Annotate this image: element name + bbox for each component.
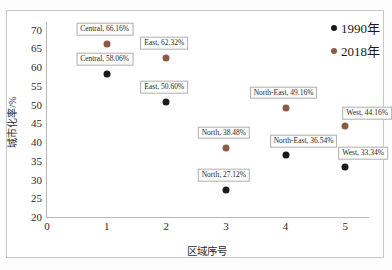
data-point-label: West, 44.16% bbox=[342, 107, 392, 120]
chart-legend: 1990年 2018年 bbox=[331, 18, 380, 64]
data-point-label: East, 50.60% bbox=[140, 81, 188, 94]
data-point-label: North-East, 36.54% bbox=[270, 135, 338, 148]
y-axis-tick: 35 bbox=[31, 155, 42, 166]
legend-marker-icon bbox=[331, 25, 337, 31]
x-axis-tick: 0 bbox=[44, 221, 50, 232]
data-point-label: North, 38.48% bbox=[198, 126, 250, 139]
y-axis-tick: 30 bbox=[31, 174, 42, 185]
legend-item-2018: 2018年 bbox=[331, 41, 380, 60]
data-point bbox=[163, 55, 170, 62]
legend-label: 2018年 bbox=[341, 41, 380, 60]
plot-area: 2025303540455055606570012345Central, 58.… bbox=[46, 22, 369, 218]
data-point bbox=[342, 123, 349, 130]
x-axis-tick: 3 bbox=[223, 221, 229, 232]
data-point-label: East, 62.32% bbox=[140, 37, 188, 50]
data-point bbox=[342, 163, 349, 170]
x-axis-tick: 1 bbox=[104, 221, 110, 232]
data-point-label: Central, 66.16% bbox=[76, 23, 133, 36]
y-axis-tick: 25 bbox=[31, 193, 42, 204]
data-point bbox=[103, 71, 110, 78]
x-axis-tick: 2 bbox=[164, 221, 170, 232]
data-point bbox=[222, 144, 229, 151]
data-point-label: Central, 58.06% bbox=[76, 53, 133, 66]
y-axis-tick: 50 bbox=[31, 99, 42, 110]
y-axis-tick: 20 bbox=[31, 212, 42, 223]
data-point bbox=[282, 151, 289, 158]
legend-label: 1990年 bbox=[341, 18, 380, 37]
data-point-label: North, 27.12% bbox=[198, 169, 250, 182]
data-point-label: North-East, 49.16% bbox=[250, 86, 318, 99]
y-axis-tick: 45 bbox=[31, 118, 42, 129]
data-point bbox=[103, 40, 110, 47]
y-axis-tick: 60 bbox=[31, 62, 42, 73]
data-point bbox=[163, 99, 170, 106]
data-point-label: West, 33.34% bbox=[338, 147, 388, 160]
data-point bbox=[222, 187, 229, 194]
y-axis-tick: 40 bbox=[31, 137, 42, 148]
legend-marker-icon bbox=[331, 48, 337, 54]
data-point bbox=[282, 104, 289, 111]
y-axis-tick: 70 bbox=[31, 24, 42, 35]
x-axis-tick: 5 bbox=[342, 221, 348, 232]
y-axis-title: 城市化率/% bbox=[4, 96, 19, 147]
y-axis-tick: 55 bbox=[31, 80, 42, 91]
x-axis-tick: 4 bbox=[283, 221, 289, 232]
scatter-chart: 城市化率/% 区域序号 2025303540455055606570012345… bbox=[0, 0, 392, 270]
legend-item-1990: 1990年 bbox=[331, 18, 380, 37]
x-axis-title: 区域序号 bbox=[187, 243, 227, 258]
y-axis-tick: 65 bbox=[31, 43, 42, 54]
